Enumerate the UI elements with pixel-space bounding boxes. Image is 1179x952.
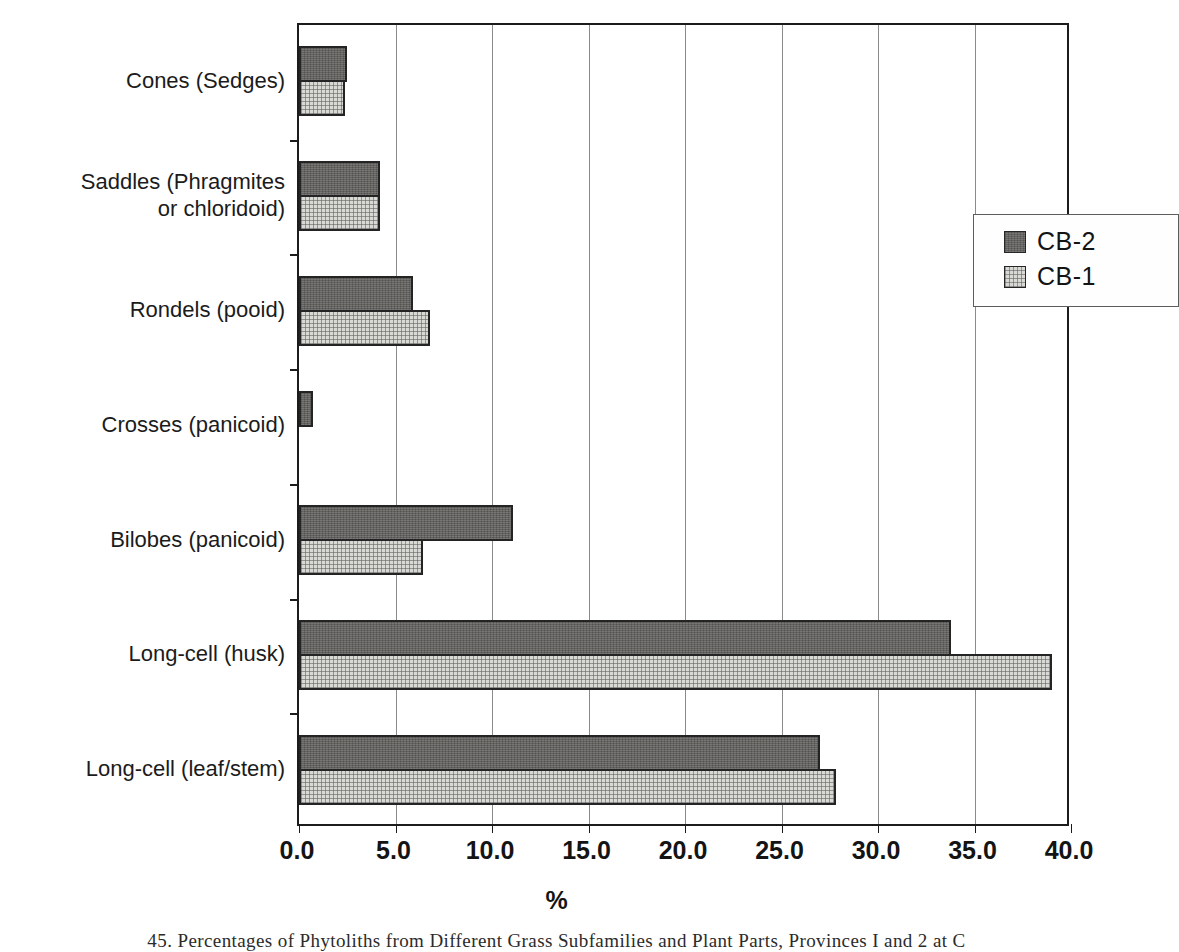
x-tick-20.0 [685,824,686,833]
category-label-line: Saddles (Phragmites [0,168,285,195]
legend-label-cb1: CB-1 [1037,262,1096,291]
bar-cb-1-5 [299,654,1052,690]
category-label-line: or chloridoid) [0,195,285,222]
x-tick-label-40.0: 40.0 [1009,836,1129,865]
category-label-6: Long-cell (leaf/stem) [0,755,285,782]
bar-cb-1-6 [299,769,836,805]
y-tick-5 [290,599,299,601]
legend-swatch-cb2 [1004,231,1026,253]
category-label-0: Cones (Sedges) [0,67,285,94]
category-label-3: Crosses (panicoid) [0,411,285,438]
category-label-line: Rondels (pooid) [0,296,285,323]
legend-swatch-cb1 [1004,266,1026,288]
legend-item-cb2[interactable]: CB-2 [974,224,1178,259]
bar-cb-2-1 [299,161,380,197]
x-axis-tick-labels: 0.05.010.015.020.025.030.035.040.0 [0,836,1113,870]
gridline-10.0 [492,25,493,824]
x-tick-25.0 [782,824,783,833]
y-tick-6 [290,713,299,715]
y-tick-4 [290,484,299,486]
gridline-35.0 [975,25,976,824]
y-tick-2 [290,254,299,256]
x-tick-15.0 [589,824,590,833]
gridline-20.0 [685,25,686,824]
bar-cb-1-1 [299,195,380,231]
x-axis-title: % [0,886,1113,915]
gridline-30.0 [878,25,879,824]
category-label-line: Bilobes (panicoid) [0,526,285,553]
plot-area: CB-2 CB-1 [297,23,1069,826]
gridline-5.0 [396,25,397,824]
category-label-4: Bilobes (panicoid) [0,526,285,553]
bar-cb-1-2 [299,310,430,346]
x-tick-30.0 [878,824,879,833]
x-tick-5.0 [396,824,397,833]
x-tick-40.0 [1071,824,1072,833]
category-label-1: Saddles (Phragmitesor chloridoid) [0,168,285,222]
bar-cb-2-4 [299,505,513,541]
y-tick-3 [290,369,299,371]
gridline-25.0 [782,25,783,824]
legend[interactable]: CB-2 CB-1 [973,214,1179,307]
gridline-15.0 [589,25,590,824]
bar-cb-2-6 [299,735,820,771]
figure-caption: 45. Percentages of Phytoliths from Diffe… [0,930,1113,952]
legend-item-cb1[interactable]: CB-1 [974,259,1178,294]
category-label-5: Long-cell (husk) [0,640,285,667]
x-tick-10.0 [492,824,493,833]
bar-cb-1-4 [299,539,423,575]
x-tick-35.0 [975,824,976,833]
legend-label-cb2: CB-2 [1037,227,1096,256]
bar-cb-2-5 [299,620,951,656]
category-label-line: Long-cell (husk) [0,640,285,667]
category-label-line: Cones (Sedges) [0,67,285,94]
category-label-line: Long-cell (leaf/stem) [0,755,285,782]
x-tick-0.0 [299,824,300,833]
category-axis-labels: Cones (Sedges)Saddles (Phragmitesor chlo… [0,23,285,826]
category-label-2: Rondels (pooid) [0,296,285,323]
bar-cb-2-0 [299,46,347,82]
bar-cb-1-0 [299,80,345,116]
bar-cb-2-3 [299,391,313,427]
category-label-line: Crosses (panicoid) [0,411,285,438]
y-tick-1 [290,140,299,142]
bar-cb-2-2 [299,276,413,312]
